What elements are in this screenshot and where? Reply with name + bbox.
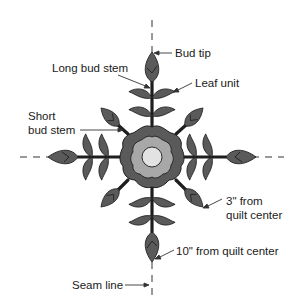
label-long-bud-stem: Long bud stem [52, 61, 128, 75]
quilt-block-diagram: Bud tip Long bud stem Leaf unit Short bu… [0, 0, 299, 302]
center-flower [120, 126, 184, 188]
label-leaf-unit: Leaf unit [195, 76, 239, 90]
label-seam-line: Seam line [72, 278, 123, 292]
label-short-bud-stem-line1: Short [28, 109, 56, 123]
label-short-bud-stem-line2: bud stem [28, 123, 75, 137]
label-3-inch-line1: 3" from [226, 194, 263, 208]
label-3-inch-line2: quilt center [226, 208, 282, 222]
label-bud-tip: Bud tip [175, 46, 211, 60]
label-10-inch: 10" from quilt center [176, 244, 279, 258]
